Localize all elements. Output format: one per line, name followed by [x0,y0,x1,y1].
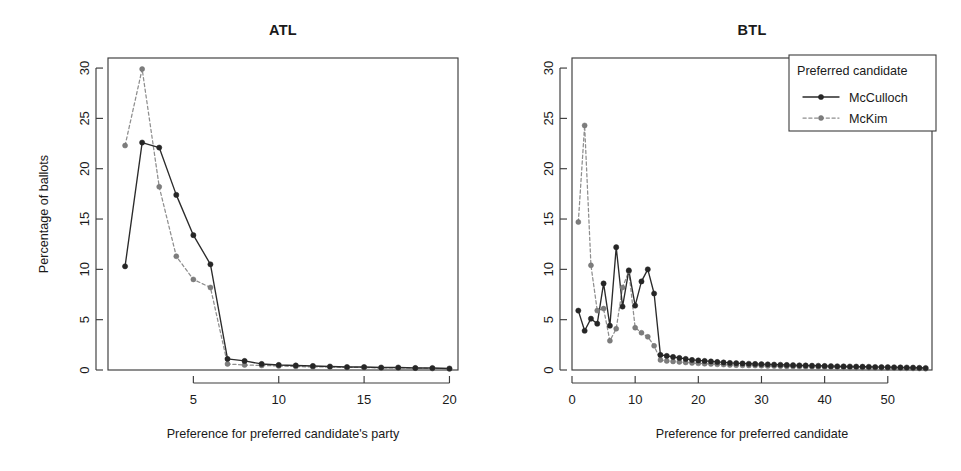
y-axis-label: Percentage of ballots [37,155,51,273]
y-tick-label: 20 [541,161,556,175]
data-point [873,364,878,369]
data-point [923,365,928,370]
x-axis-label: Preference for preferred candidate's par… [167,427,400,441]
data-point [447,366,452,371]
data-point [696,358,701,363]
data-point [607,338,612,343]
data-point [576,308,581,313]
data-point [601,306,606,311]
y-tick-label: 0 [77,366,92,373]
data-point [652,343,657,348]
y-tick-label: 15 [77,212,92,226]
data-point [620,285,625,290]
data-point [327,364,332,369]
data-point [582,123,587,128]
data-point [413,365,418,370]
data-point [140,140,145,145]
y-tick-label: 25 [77,111,92,125]
figure-canvas: ATL0510152025305101520Preference for pre… [0,0,961,471]
x-tick-label: 40 [817,392,831,407]
data-point [344,364,349,369]
data-point [740,361,745,366]
data-point [595,321,600,326]
x-tick-label: 10 [628,392,642,407]
data-point [670,354,675,359]
data-point [702,358,707,363]
y-tick-label: 20 [77,161,92,175]
data-point [639,279,644,284]
data-point [208,262,213,267]
data-point [708,359,713,364]
y-tick-label: 30 [541,61,556,75]
data-point [576,220,581,225]
data-point [140,67,145,72]
data-point [633,325,638,330]
data-point [123,143,128,148]
data-point [191,277,196,282]
y-tick-label: 30 [77,61,92,75]
data-point [727,360,732,365]
data-point [658,352,663,357]
y-tick-label: 10 [77,262,92,276]
data-point [759,362,764,367]
data-point [225,361,230,366]
data-point [652,291,657,296]
data-point [645,267,650,272]
two-panel-line-chart: ATL0510152025305101520Preference for pre… [0,0,961,471]
data-point [784,362,789,367]
data-point [430,365,435,370]
data-point [293,363,298,368]
data-point [898,365,903,370]
data-point [614,245,619,250]
legend-entry-label: McKim [849,112,887,126]
y-tick-label: 0 [541,366,556,373]
data-point [582,328,587,333]
y-tick-label: 5 [541,316,556,323]
data-point [614,326,619,331]
legend-marker [819,116,824,121]
data-point [892,365,897,370]
data-point [797,363,802,368]
data-point [689,357,694,362]
data-point [396,365,401,370]
y-tick-label: 25 [541,111,556,125]
data-point [835,364,840,369]
data-point [803,363,808,368]
x-tick-label: 15 [357,392,371,407]
x-tick-label: 5 [190,392,197,407]
x-axis-label: Preference for preferred candidate [656,427,849,441]
data-point [276,362,281,367]
data-point [225,356,230,361]
legend-marker [818,94,823,99]
data-point [620,304,625,309]
data-point [310,363,315,368]
data-point [753,361,758,366]
data-point [626,268,631,273]
data-point [588,316,593,321]
data-point [658,357,663,362]
data-point [588,263,593,268]
data-point [917,365,922,370]
data-point [607,323,612,328]
data-point [122,264,127,269]
data-point [645,334,650,339]
data-point [809,363,814,368]
data-point [790,363,795,368]
data-point [904,365,909,370]
data-point [362,364,367,369]
data-point [866,364,871,369]
y-tick-label: 15 [541,212,556,226]
data-point [772,362,777,367]
data-point [828,364,833,369]
x-tick-label: 10 [271,392,285,407]
x-tick-label: 20 [691,392,705,407]
data-point [191,233,196,238]
data-point [174,192,179,197]
x-tick-label: 0 [568,392,575,407]
data-point [879,364,884,369]
data-point [639,330,644,335]
data-point [664,353,669,358]
data-point [157,145,162,150]
data-point [885,365,890,370]
data-point [633,303,638,308]
